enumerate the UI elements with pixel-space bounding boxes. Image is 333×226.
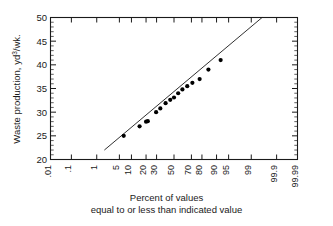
x-axis-tick-label: .1 xyxy=(63,165,73,173)
y-axis-tick-label: 35 xyxy=(36,83,47,94)
data-point xyxy=(206,67,210,71)
x-axis-tick-label: 50 xyxy=(166,165,176,175)
y-axis-tick-label: 45 xyxy=(36,36,47,47)
y-axis-ticks-right xyxy=(292,18,298,160)
x-axis-tick-label: 99 xyxy=(243,165,253,175)
y-axis-tick-label: 40 xyxy=(36,59,47,70)
data-point xyxy=(163,101,167,105)
data-point xyxy=(154,110,158,114)
x-axis-tick-label: .01 xyxy=(43,165,53,178)
x-axis-tick-label: 20 xyxy=(138,165,148,175)
y-axis-ticks xyxy=(51,18,57,160)
x-axis-tick-label: 5 xyxy=(111,165,121,170)
x-axis-tick-label: 10 xyxy=(123,165,133,175)
data-point xyxy=(176,91,180,95)
data-point xyxy=(146,119,150,123)
probability-plot-figure: Waste production, yd3/wk. 20253035404550… xyxy=(0,0,333,226)
svg-text:Waste production, yd3/wk.: Waste production, yd3/wk. xyxy=(11,34,22,143)
x-axis-tick-label: 90 xyxy=(209,165,219,175)
data-point xyxy=(185,84,189,88)
fitted-line xyxy=(104,18,262,151)
data-point xyxy=(198,77,202,81)
x-axis-tick-label: 99.9 xyxy=(269,165,279,183)
y-axis-tick-label: 25 xyxy=(36,130,47,141)
x-axis-tick-label: 70 xyxy=(183,165,193,175)
x-axis-tick-label: 80 xyxy=(194,165,204,175)
x-axis-tick-labels: .01.11510203050708090959999.999.99 xyxy=(43,165,300,188)
data-point xyxy=(137,124,141,128)
x-axis-tick-label: 1 xyxy=(89,165,99,170)
y-axis-title-suffix: /wk. xyxy=(11,34,22,51)
y-axis-title: Waste production, yd3/wk. xyxy=(11,34,22,143)
y-axis-tick-label: 20 xyxy=(36,154,47,165)
y-axis-title-prefix: Waste production, yd xyxy=(11,55,22,144)
data-point xyxy=(180,87,184,91)
data-point xyxy=(172,95,176,99)
x-axis-tick-label: 30 xyxy=(149,165,159,175)
data-point xyxy=(219,58,223,62)
y-axis-tick-label: 30 xyxy=(36,107,47,118)
plot-frame xyxy=(51,18,298,160)
x-axis-caption-line1: Percent of values xyxy=(0,192,333,204)
data-point xyxy=(190,81,194,85)
y-axis-tick-labels: 20253035404550 xyxy=(36,12,47,165)
y-axis-tick-label: 50 xyxy=(36,12,47,23)
x-axis-tick-label: 99.99 xyxy=(290,165,300,188)
data-point xyxy=(168,98,172,102)
x-axis-ticks-top xyxy=(51,18,298,23)
data-point xyxy=(122,134,126,138)
x-axis-ticks xyxy=(51,155,298,160)
data-point-series xyxy=(122,58,223,138)
x-axis-caption-line2: equal to or less than indicated value xyxy=(0,204,333,216)
x-axis-tick-label: 95 xyxy=(221,165,231,175)
data-point xyxy=(158,106,162,110)
